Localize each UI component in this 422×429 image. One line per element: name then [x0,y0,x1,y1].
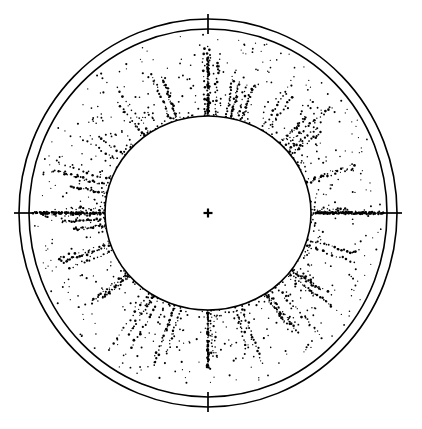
scatter-point [339,208,342,211]
scatter-point [91,138,93,140]
scatter-point [45,268,46,269]
scatter-point [139,315,140,316]
scatter-point [103,244,106,247]
scatter-point [240,106,242,108]
scatter-point [253,85,255,87]
scatter-point [185,377,186,378]
scatter-point [145,337,146,338]
scatter-point [70,186,72,188]
scatter-point [317,287,318,288]
scatter-point [285,295,287,297]
scatter-point [209,92,211,94]
scatter-point [123,111,125,113]
scatter-point [212,355,214,357]
scatter-point [237,85,239,87]
scatter-point [377,211,379,213]
scatter-point [54,209,55,210]
scatter-point [303,162,304,163]
scatter-point [105,177,108,180]
scatter-point [285,93,287,95]
scatter-point [197,108,199,110]
scatter-point [103,291,104,292]
scatter-point [339,156,341,158]
scatter-point [258,301,260,303]
scatter-point [315,308,317,310]
scatter-point [321,297,324,300]
scatter-point [208,87,210,89]
scatter-point [173,118,175,120]
scatter-point [300,297,301,298]
scatter-point [57,170,60,173]
scatter-point [142,326,144,328]
scatter-point [270,114,272,116]
scatter-point [43,262,44,263]
scatter-point [95,191,96,192]
scatter-point [98,225,100,227]
scatter-point [116,285,117,286]
scatter-point [319,210,321,212]
scatter-point [270,60,271,61]
scatter-point [130,144,131,145]
scatter-point [247,118,249,120]
scatter-point [305,116,307,118]
scatter-point [136,355,138,357]
scatter-point [95,298,97,300]
scatter-point [97,192,99,194]
scatter-point [81,164,83,166]
scatter-point [77,264,79,266]
scatter-point [82,104,83,105]
scatter-point [215,331,216,332]
scatter-point [359,152,360,153]
scatter-point [217,68,219,70]
scatter-point [207,81,209,83]
scatter-point [109,289,111,291]
scatter-point [255,68,257,70]
scatter-point [139,319,141,321]
scatter-point [146,303,148,305]
scatter-point [123,108,125,110]
scatter-point [348,274,350,276]
scatter-point [309,140,311,142]
scatter-point [100,137,103,140]
scatter-point [323,243,325,245]
scatter-point [230,115,233,118]
scatter-point [237,112,239,114]
scatter-point [321,112,323,114]
scatter-point [215,99,218,102]
scatter-point [167,115,170,118]
scatter-point [247,100,249,102]
scatter-point [185,382,187,384]
scatter-point [65,211,67,213]
scatter-point [216,62,219,65]
scatter-point [236,379,237,380]
scatter-point [337,179,339,181]
scatter-point [132,281,134,283]
scatter-point [107,269,109,271]
scatter-point [247,346,249,348]
scatter-point [118,91,120,93]
scatter-point [50,290,52,292]
scatter-point [295,306,296,307]
scatter-point [244,353,246,355]
scatter-point [71,213,72,214]
scatter-point [75,176,77,178]
scatter-point [116,157,118,159]
scatter-point [92,119,94,121]
scatter-point [339,121,341,123]
scatter-point [214,91,216,93]
scatter-point [316,193,317,194]
scatter-point [360,179,361,180]
scatter-point [267,375,269,377]
scatter-point [147,366,149,368]
scatter-point [147,76,149,78]
scatter-point [63,172,65,174]
scatter-point [238,321,240,323]
scatter-point [152,77,153,78]
scatter-point [288,321,290,323]
scatter-point [322,162,324,164]
scatter-point [204,65,206,67]
scatter-point [109,293,111,295]
scatter-point [322,231,324,233]
scatter-point [82,170,84,172]
scatter-point [121,95,124,98]
